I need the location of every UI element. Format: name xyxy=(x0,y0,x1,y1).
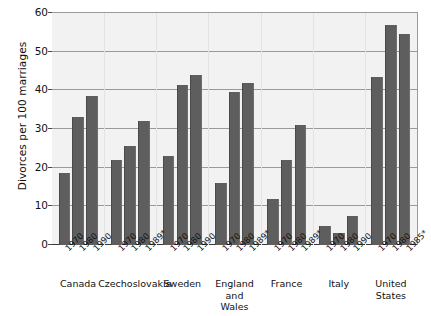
y-axis-tick-mark xyxy=(48,89,52,90)
group-separator xyxy=(313,13,314,245)
y-axis-tick-mark xyxy=(48,12,52,13)
divorce-rate-bar-chart: Divorces per 100 marriages 0102030405060… xyxy=(0,0,431,316)
bar xyxy=(177,85,189,245)
y-axis-tick-label: 40 xyxy=(8,83,48,95)
bar xyxy=(385,25,397,245)
bar xyxy=(229,92,241,245)
group-separator xyxy=(261,13,262,245)
bar xyxy=(86,96,98,245)
bar xyxy=(215,183,227,245)
y-axis-tick-label: 10 xyxy=(8,199,48,211)
x-axis-labels: 197019801990Canada197019801989*Czechoslo… xyxy=(52,245,417,316)
group-label-line: Italy xyxy=(328,278,349,289)
group-separator xyxy=(104,13,105,245)
group-label-line: Sweden xyxy=(164,278,202,289)
group-label-line: Canada xyxy=(60,278,96,289)
x-axis-group-label: United States xyxy=(359,278,423,301)
y-axis-tick-mark xyxy=(48,205,52,206)
group-label-line: United States xyxy=(375,278,406,301)
gridline xyxy=(52,89,417,90)
y-axis-tick-label: 30 xyxy=(8,122,48,134)
y-axis-tick-label: 0 xyxy=(8,238,48,250)
y-axis-tick-mark xyxy=(48,167,52,168)
group-label-line: France xyxy=(271,278,303,289)
group-label-line: Wales xyxy=(220,301,248,312)
bar xyxy=(59,173,71,245)
group-label-line: England xyxy=(215,278,254,289)
y-axis-tick-label: 60 xyxy=(8,6,48,18)
bar xyxy=(371,77,383,245)
bar xyxy=(190,75,202,245)
bar xyxy=(72,117,84,245)
group-separator xyxy=(208,13,209,245)
bar xyxy=(138,121,150,245)
plot-area xyxy=(52,12,418,245)
group-separator xyxy=(156,13,157,245)
bar xyxy=(111,160,123,245)
y-axis-tick-label: 50 xyxy=(8,45,48,57)
gridline xyxy=(52,51,417,52)
bar xyxy=(295,125,307,245)
group-label-line: and xyxy=(226,290,244,301)
bar xyxy=(242,83,254,245)
y-axis-tick-label: 20 xyxy=(8,161,48,173)
y-axis-tick-mark xyxy=(48,128,52,129)
plot-inner xyxy=(52,13,417,245)
gridline xyxy=(52,12,417,13)
y-axis-tick-mark xyxy=(48,51,52,52)
group-separator xyxy=(365,13,366,245)
bar xyxy=(399,34,411,245)
